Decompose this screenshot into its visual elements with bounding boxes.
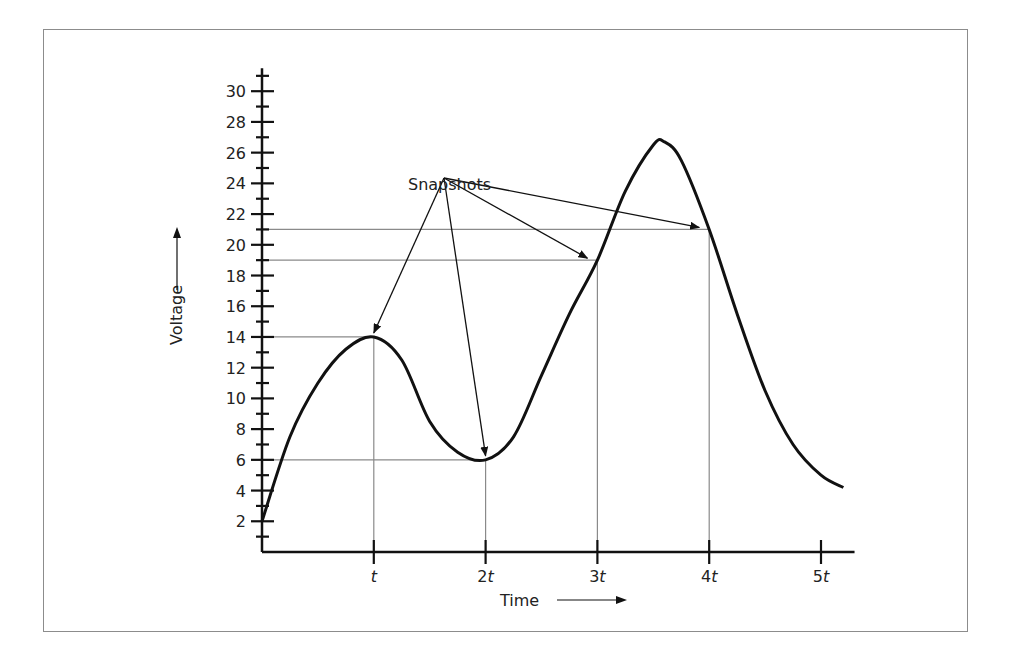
y-tick-label: 24 bbox=[226, 174, 246, 193]
y-tick-label: 30 bbox=[226, 82, 246, 101]
x-axis-label: Time bbox=[499, 591, 539, 610]
x-tick-label: 5t bbox=[813, 567, 830, 586]
x-tick-label: t bbox=[371, 567, 378, 586]
y-axis-label: Voltage bbox=[167, 285, 186, 345]
y-tick-label: 4 bbox=[236, 482, 246, 501]
y-tick-label: 18 bbox=[226, 267, 246, 286]
snapshot-arrow bbox=[444, 178, 486, 456]
snapshot-arrow bbox=[374, 178, 444, 333]
axes bbox=[262, 68, 855, 552]
y-tick-label: 8 bbox=[236, 420, 246, 439]
snapshot-guide-lines bbox=[262, 229, 709, 552]
y-axis-arrow-icon bbox=[173, 227, 181, 290]
voltage-time-chart: 24681012141618202224262830 t2t3t4t5t Sna… bbox=[0, 0, 1011, 664]
y-tick-label: 12 bbox=[226, 359, 246, 378]
y-tick-label: 6 bbox=[236, 451, 246, 470]
x-tick-label: 2t bbox=[477, 567, 494, 586]
y-tick-label: 16 bbox=[226, 297, 246, 316]
x-axis-arrow-icon bbox=[557, 596, 627, 604]
y-tick-label: 2 bbox=[236, 512, 246, 531]
y-tick-label: 26 bbox=[226, 144, 246, 163]
y-tick-label: 22 bbox=[226, 205, 246, 224]
snapshot-arrows bbox=[374, 178, 699, 456]
snapshots-label: Snapshots bbox=[408, 175, 491, 194]
y-tick-label: 14 bbox=[226, 328, 246, 347]
y-tick-label: 10 bbox=[226, 389, 246, 408]
x-tick-label: 4t bbox=[701, 567, 718, 586]
x-tick-label: 3t bbox=[589, 567, 606, 586]
y-tick-label: 28 bbox=[226, 113, 246, 132]
voltage-curve bbox=[262, 139, 843, 521]
y-axis-ticks: 24681012141618202224262830 bbox=[226, 76, 274, 537]
x-axis-ticks: t2t3t4t5t bbox=[371, 540, 830, 586]
y-tick-label: 20 bbox=[226, 236, 246, 255]
